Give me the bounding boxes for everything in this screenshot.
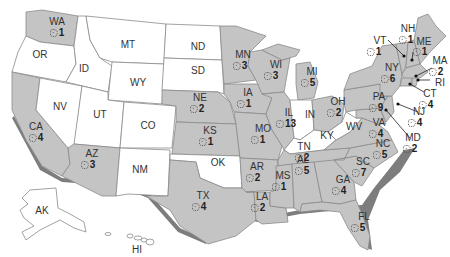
label-az: AZ xyxy=(86,149,99,159)
label-vt: VT xyxy=(374,36,387,46)
label-in: IN xyxy=(305,110,315,120)
label-ca: CA xyxy=(29,122,43,132)
label-ms: MS xyxy=(276,171,291,181)
count-il: 13 xyxy=(276,119,296,129)
label-wa: WA xyxy=(49,17,65,27)
gear-icon xyxy=(295,167,303,175)
gear-icon xyxy=(192,203,200,211)
state-sd[interactable] xyxy=(162,58,224,94)
label-ut: UT xyxy=(93,110,106,120)
label-ny: NY xyxy=(385,63,399,73)
count-ga: 4 xyxy=(332,186,347,196)
label-sc: SC xyxy=(356,157,370,167)
gear-icon xyxy=(272,183,280,191)
label-oh: OH xyxy=(331,97,346,107)
count-pa: 9 xyxy=(369,103,384,113)
label-ne: NE xyxy=(193,93,207,103)
gear-icon xyxy=(327,109,335,117)
count-wa: 1 xyxy=(50,28,65,38)
label-nh: NH xyxy=(401,24,415,34)
count-ar: 2 xyxy=(246,173,261,183)
gear-icon xyxy=(264,72,272,80)
state-hi[interactable] xyxy=(105,233,154,246)
label-nv: NV xyxy=(53,102,67,112)
count-me: 1 xyxy=(413,47,428,57)
gear-icon xyxy=(429,68,437,76)
label-ct: CT xyxy=(423,89,436,99)
gear-icon xyxy=(408,119,416,127)
gear-icon xyxy=(369,130,377,138)
gear-icon xyxy=(369,104,377,112)
count-tx: 4 xyxy=(192,202,207,212)
gear-icon xyxy=(81,161,89,169)
count-sc: 7 xyxy=(352,168,367,178)
label-il: IL xyxy=(285,108,293,118)
gear-icon xyxy=(332,187,340,195)
label-hi: HI xyxy=(132,245,142,255)
label-mi: MI xyxy=(306,67,317,77)
count-ia: 1 xyxy=(237,99,252,109)
gear-icon xyxy=(367,48,375,56)
label-tn: TN xyxy=(297,142,310,152)
gear-icon xyxy=(251,204,259,212)
label-tx: TX xyxy=(197,191,210,201)
count-ma: 2 xyxy=(429,67,444,77)
gear-icon xyxy=(276,120,284,128)
label-ia: IA xyxy=(243,88,252,98)
label-al: AL xyxy=(297,155,309,165)
count-la: 2 xyxy=(251,203,266,213)
count-oh: 2 xyxy=(327,108,342,118)
label-ak: AK xyxy=(35,206,48,216)
count-ny: 6 xyxy=(381,74,396,84)
gear-icon xyxy=(199,138,207,146)
count-mi: 5 xyxy=(301,78,316,88)
label-id: ID xyxy=(79,64,89,74)
gear-icon xyxy=(190,105,198,113)
label-sd: SD xyxy=(191,66,205,76)
count-nh: 1 xyxy=(399,35,414,45)
label-md: MD xyxy=(405,133,421,143)
count-ms: 1 xyxy=(272,182,287,192)
gear-icon xyxy=(381,75,389,83)
label-mo: MO xyxy=(255,124,271,134)
gear-icon xyxy=(237,100,245,108)
label-wi: WI xyxy=(270,60,282,70)
label-nc: NC xyxy=(376,139,390,149)
state-ak[interactable] xyxy=(20,188,86,240)
count-ne: 2 xyxy=(190,104,205,114)
label-pa: PA xyxy=(373,92,386,102)
gear-icon xyxy=(29,134,37,142)
count-al: 5 xyxy=(295,166,310,176)
label-nj: NJ xyxy=(413,107,425,117)
count-ks: 1 xyxy=(199,137,214,147)
label-ga: GA xyxy=(336,175,350,185)
label-mn: MN xyxy=(235,50,251,60)
count-wi: 3 xyxy=(264,71,279,81)
label-nm: NM xyxy=(132,165,148,175)
gear-icon xyxy=(233,62,241,70)
label-co: CO xyxy=(141,121,156,131)
gear-icon xyxy=(403,145,411,153)
count-mn: 3 xyxy=(233,61,248,71)
count-md: 2 xyxy=(403,144,418,154)
gear-icon xyxy=(251,136,259,144)
label-va: VA xyxy=(373,118,386,128)
gear-icon xyxy=(352,169,360,177)
count-ca: 4 xyxy=(29,133,44,143)
label-ma: MA xyxy=(433,56,448,66)
label-wv: WV xyxy=(346,122,362,132)
count-nc: 5 xyxy=(373,150,388,160)
label-wy: WY xyxy=(130,78,146,88)
label-or: OR xyxy=(33,50,48,60)
count-nj: 4 xyxy=(408,118,423,128)
label-la: LA xyxy=(256,192,268,202)
gear-icon xyxy=(351,224,359,232)
label-ks: KS xyxy=(203,126,216,136)
count-vt: 1 xyxy=(367,47,382,57)
gear-icon xyxy=(399,36,407,44)
label-ar: AR xyxy=(250,162,264,172)
count-az: 3 xyxy=(81,160,96,170)
gear-icon xyxy=(373,151,381,159)
label-ky: KY xyxy=(320,131,333,141)
gear-icon xyxy=(246,174,254,182)
